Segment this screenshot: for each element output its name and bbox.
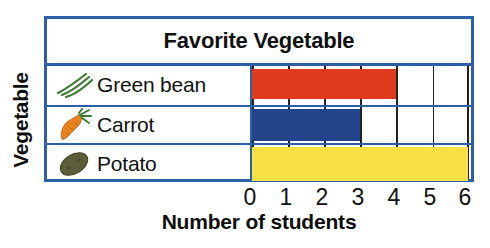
plot-cell-potato bbox=[252, 145, 471, 182]
favorite-vegetable-bar-chart: Vegetable Favorite Vegetable bbox=[0, 0, 490, 248]
y-axis-title-text: Vegetable bbox=[9, 72, 33, 167]
x-tick-3: 3 bbox=[341, 184, 375, 211]
x-axis-title-text: Number of students bbox=[162, 210, 357, 233]
plot-cell-carrot bbox=[252, 107, 471, 144]
row-label-cell-carrot: Carrot bbox=[47, 107, 252, 144]
chart-body: Green bean bbox=[47, 66, 471, 179]
row-label-cell-potato: Potato bbox=[47, 145, 252, 182]
x-axis-ticks: 0 1 2 3 4 5 6 bbox=[44, 184, 474, 212]
chart-row-green-bean: Green bean bbox=[47, 66, 471, 105]
bar-green-bean bbox=[252, 69, 396, 99]
x-tick-2: 2 bbox=[305, 184, 339, 211]
chart-row-carrot: Carrot bbox=[47, 105, 471, 144]
chart-box: Favorite Vegetable bbox=[44, 16, 474, 182]
x-tick-6: 6 bbox=[448, 184, 482, 211]
carrot-icon bbox=[53, 108, 95, 142]
bar-potato bbox=[252, 147, 468, 181]
plot-cell-green-bean bbox=[252, 66, 471, 105]
chart-title-band: Favorite Vegetable bbox=[47, 19, 471, 66]
x-axis-title: Number of students bbox=[44, 210, 474, 234]
row-label-potato: Potato bbox=[97, 152, 157, 176]
potato-icon bbox=[53, 147, 95, 181]
chart-row-potato: Potato bbox=[47, 143, 471, 182]
x-tick-0: 0 bbox=[233, 184, 267, 211]
x-tick-1: 1 bbox=[269, 184, 303, 211]
row-label-green-bean: Green bean bbox=[97, 73, 206, 97]
row-label-carrot: Carrot bbox=[97, 113, 154, 137]
x-tick-4: 4 bbox=[377, 184, 411, 211]
green-bean-icon bbox=[53, 68, 95, 102]
chart-title: Favorite Vegetable bbox=[164, 28, 355, 54]
bar-carrot bbox=[252, 109, 360, 141]
x-tick-5: 5 bbox=[413, 184, 447, 211]
y-axis-title: Vegetable bbox=[2, 46, 40, 194]
row-label-cell-green-bean: Green bean bbox=[47, 66, 252, 105]
